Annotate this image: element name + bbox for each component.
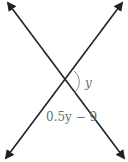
intersecting-lines-diagram: y 0.5y − 9 xyxy=(0,0,128,162)
angle-label-bottom: 0.5y − 9 xyxy=(46,110,97,124)
line-2 xyxy=(6,3,122,158)
angle-label-y: y xyxy=(84,76,92,90)
angle-arc-y xyxy=(74,71,79,93)
line-1 xyxy=(8,3,124,158)
